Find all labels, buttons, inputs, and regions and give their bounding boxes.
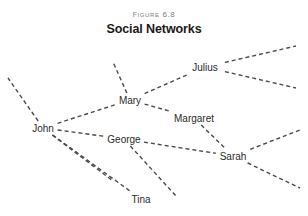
edge-layer: [8, 46, 300, 196]
network-graph-canvas: [0, 0, 308, 216]
edge-julius-external-3: [225, 46, 296, 62]
edge-george-external-7: [130, 146, 176, 196]
edge-john-mary: [58, 105, 116, 124]
node-label-george[interactable]: George: [105, 134, 142, 145]
edge-mary-julius: [145, 74, 189, 94]
edge-john-george: [58, 130, 105, 136]
edge-mary-margaret: [145, 104, 170, 111]
edge-sarah-external-5: [250, 130, 300, 149]
edge-mary-external-2: [113, 62, 127, 93]
node-label-sarah[interactable]: Sarah: [218, 151, 249, 162]
node-label-julius[interactable]: Julius: [190, 62, 220, 73]
edge-julius-external-4: [225, 72, 296, 88]
figure-social-networks: Figure 6.8 Social Networks JohnMaryGeorg…: [0, 0, 308, 216]
node-label-margaret[interactable]: Margaret: [172, 113, 216, 124]
edge-john-external-0: [8, 78, 38, 121]
node-label-john[interactable]: John: [30, 123, 56, 134]
edge-sarah-external-6: [248, 163, 300, 188]
edge-margaret-sarah: [201, 125, 226, 149]
node-label-tina[interactable]: Tina: [129, 194, 152, 205]
edge-george-sarah: [144, 142, 216, 153]
node-label-mary[interactable]: Mary: [117, 95, 143, 106]
edge-john-external-1: [52, 135, 113, 181]
